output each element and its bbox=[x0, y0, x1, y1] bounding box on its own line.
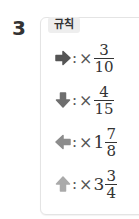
fraction: 4 15 bbox=[94, 84, 113, 117]
times-sign: × bbox=[79, 133, 92, 152]
colon: : bbox=[72, 133, 77, 151]
colon: : bbox=[72, 49, 77, 67]
times-sign: × bbox=[79, 91, 92, 110]
arrow-up-icon bbox=[55, 176, 71, 192]
colon: : bbox=[72, 91, 77, 109]
denominator: 4 bbox=[107, 185, 117, 201]
denominator: 8 bbox=[107, 143, 117, 159]
fraction: 3 10 bbox=[94, 42, 113, 75]
problem-number: 3 bbox=[12, 16, 26, 40]
denominator: 10 bbox=[94, 59, 113, 75]
numerator: 3 bbox=[107, 168, 117, 184]
arrow-right-icon bbox=[55, 50, 71, 66]
fraction: 7 8 bbox=[105, 126, 117, 159]
rule-left: : × 1 7 8 bbox=[55, 124, 117, 160]
whole-part: 1 bbox=[93, 132, 104, 152]
colon: : bbox=[72, 175, 77, 193]
rule-up: : × 3 3 4 bbox=[55, 166, 117, 202]
arrow-left-icon bbox=[55, 134, 71, 150]
numerator: 7 bbox=[107, 126, 117, 142]
rule-right: : × 3 10 bbox=[55, 40, 114, 76]
numerator: 4 bbox=[99, 84, 109, 100]
whole-part: 3 bbox=[93, 174, 104, 194]
times-sign: × bbox=[79, 49, 92, 68]
arrow-down-icon bbox=[55, 92, 71, 108]
rule-down: : × 4 15 bbox=[55, 82, 114, 118]
rules-label: 규칙 bbox=[48, 17, 80, 33]
numerator: 3 bbox=[99, 42, 109, 58]
fraction: 3 4 bbox=[105, 168, 117, 201]
times-sign: × bbox=[79, 175, 92, 194]
denominator: 15 bbox=[94, 101, 113, 117]
